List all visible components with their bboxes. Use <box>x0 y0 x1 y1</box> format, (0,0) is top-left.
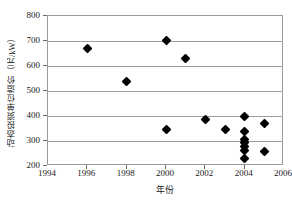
x-tick-mark-2004 <box>244 165 245 169</box>
y-tick-label-800: 800 <box>2 10 40 20</box>
plot-area <box>47 15 283 165</box>
gridline-y-500 <box>48 91 282 92</box>
data-point <box>240 154 250 164</box>
y-tick-label-400: 400 <box>2 110 40 120</box>
y-tick-mark-500 <box>43 90 47 91</box>
y-tick-mark-800 <box>43 15 47 16</box>
data-point <box>259 147 269 157</box>
y-tick-mark-200 <box>43 165 47 166</box>
x-tick-label-2002: 2002 <box>184 168 224 178</box>
x-tick-mark-2000 <box>165 165 166 169</box>
x-tick-mark-1996 <box>86 165 87 169</box>
scatter-chart: 动态投资单位造价（元/kW） 200300400500600700800 199… <box>0 0 292 205</box>
x-tick-label-2000: 2000 <box>145 168 185 178</box>
y-tick-mark-700 <box>43 40 47 41</box>
x-tick-label-1994: 1994 <box>27 168 67 178</box>
y-tick-mark-300 <box>43 140 47 141</box>
y-tick-label-600: 600 <box>2 60 40 70</box>
x-tick-mark-1998 <box>126 165 127 169</box>
data-point <box>181 54 191 64</box>
x-tick-label-2004: 2004 <box>224 168 264 178</box>
data-point <box>122 77 132 87</box>
data-point <box>220 124 230 134</box>
data-point <box>161 36 171 46</box>
x-tick-label-1998: 1998 <box>106 168 146 178</box>
y-tick-label-700: 700 <box>2 35 40 45</box>
y-tick-mark-600 <box>43 65 47 66</box>
y-tick-label-500: 500 <box>2 85 40 95</box>
x-tick-label-1996: 1996 <box>66 168 106 178</box>
data-point <box>240 112 250 122</box>
data-point <box>259 118 269 128</box>
y-tick-label-300: 300 <box>2 135 40 145</box>
x-axis-title: 年份 <box>47 183 283 196</box>
x-tick-mark-2002 <box>204 165 205 169</box>
x-tick-label-2006: 2006 <box>263 168 292 178</box>
data-point <box>161 125 171 135</box>
data-point <box>82 44 92 54</box>
gridline-y-600 <box>48 66 282 67</box>
y-tick-mark-400 <box>43 115 47 116</box>
